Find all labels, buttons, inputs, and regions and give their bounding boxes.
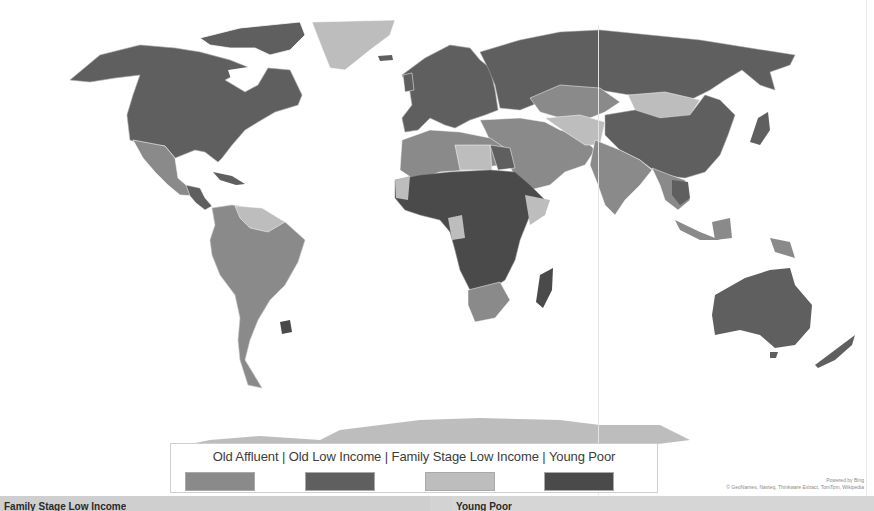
bing-credit: Powered by Bing: [826, 477, 864, 483]
legend-title: Old Affluent | Old Low Income | Family S…: [171, 449, 657, 464]
bottom-panel-right-label: Young Poor: [456, 499, 512, 511]
region-canada-arctic: [200, 22, 305, 55]
region-north-america: [70, 45, 302, 162]
legend-swatch-family-stage-low-income: [425, 472, 495, 491]
region-horn-of-africa: [525, 195, 550, 225]
region-tasmania: [770, 352, 778, 358]
legend-swatch-old-low-income: [305, 472, 375, 491]
region-japan: [750, 112, 770, 145]
bottom-panel-right[interactable]: Young Poor: [452, 496, 874, 511]
legend: Old Affluent | Old Low Income | Family S…: [170, 443, 658, 493]
region-new-guinea: [770, 238, 795, 258]
bottom-panel-left-label: Family Stage Low Income: [4, 499, 126, 511]
region-central-america: [186, 185, 212, 210]
region-australia: [712, 268, 812, 348]
legend-swatch-old-affluent: [185, 472, 255, 491]
map-canvas[interactable]: [0, 0, 874, 496]
region-caribbean: [213, 172, 245, 185]
world-map: [0, 0, 874, 496]
map-tile-seam: [598, 25, 599, 495]
map-right-edge: [866, 0, 867, 496]
region-borneo: [712, 218, 732, 240]
region-new-zealand: [815, 335, 855, 368]
region-iceland: [378, 55, 393, 61]
region-south-america: [210, 205, 305, 388]
region-gabon: [448, 215, 465, 240]
legend-swatch-young-poor: [544, 472, 614, 491]
region-uk: [403, 73, 414, 92]
region-greenland: [312, 20, 395, 70]
region-libya: [455, 145, 492, 170]
bottom-panel-left[interactable]: Family Stage Low Income: [0, 496, 430, 511]
data-credit: © GeoNames, Navteq, Thinkware Extract, T…: [726, 484, 864, 490]
region-uruguay: [280, 320, 292, 334]
region-madagascar: [536, 268, 553, 308]
region-central-africa: [395, 170, 545, 290]
region-west-africa-light: [395, 176, 410, 200]
